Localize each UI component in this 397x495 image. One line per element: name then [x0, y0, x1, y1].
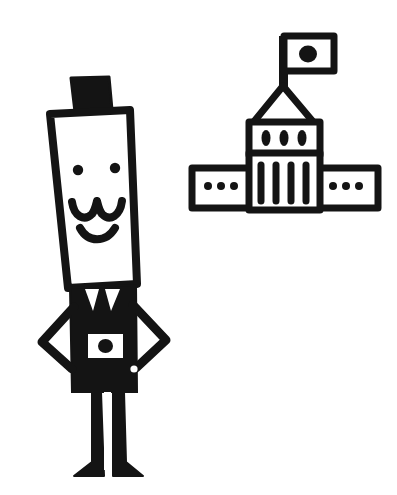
- left-wing-window-1: [204, 182, 212, 190]
- top-hat: [71, 77, 112, 112]
- illustration-canvas: Cartoon figure with government building …: [0, 0, 397, 495]
- tower-window-3: [298, 130, 307, 146]
- right-wing-window-3: [355, 182, 363, 190]
- left-eye: [73, 165, 83, 175]
- tower-window-2: [280, 130, 289, 146]
- flag-emblem-circle: [299, 46, 317, 63]
- illustration-svg: [0, 0, 397, 495]
- leg-gap: [104, 392, 111, 470]
- left-wing-window-2: [217, 182, 225, 190]
- right-eye: [110, 163, 120, 173]
- tower-window-1: [262, 130, 271, 146]
- background: [0, 0, 397, 495]
- chest-badge-emblem: [98, 339, 113, 353]
- right-hand-dot: [130, 365, 137, 372]
- right-wing-window-2: [342, 182, 350, 190]
- right-wing-window-1: [329, 182, 337, 190]
- left-wing-window-3: [230, 182, 238, 190]
